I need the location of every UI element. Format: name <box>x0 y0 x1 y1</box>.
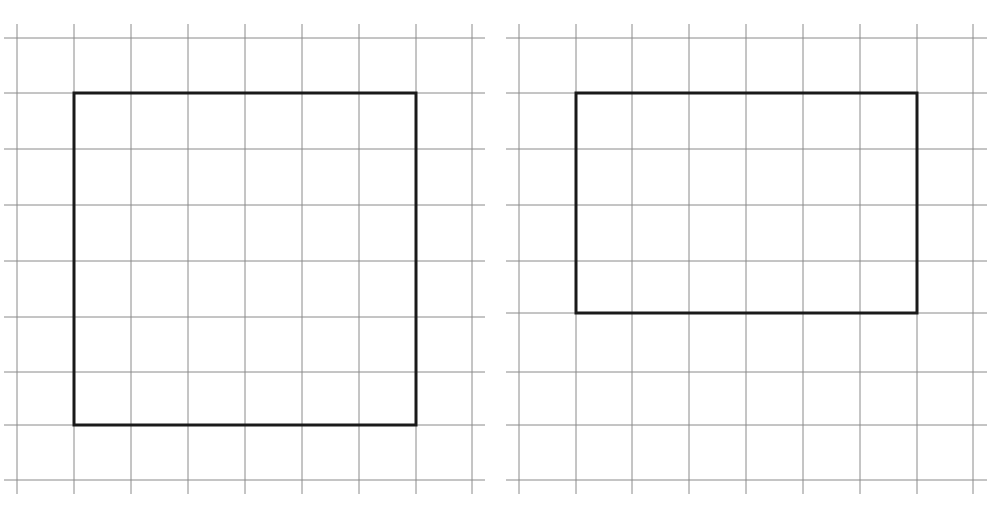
right-grid-panel <box>506 24 987 494</box>
left-grid-panel <box>4 24 485 494</box>
grid-diagram <box>0 0 989 513</box>
